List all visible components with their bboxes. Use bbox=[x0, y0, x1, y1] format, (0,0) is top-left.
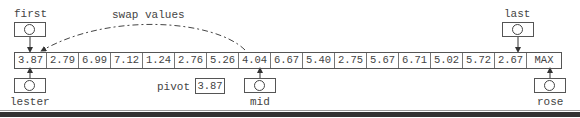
swap-arrow bbox=[43, 24, 245, 50]
divider bbox=[0, 110, 580, 111]
array-cell: 2.79 bbox=[47, 53, 79, 68]
array-cell: 5.72 bbox=[463, 53, 495, 68]
array-cell: 3.87 bbox=[15, 53, 47, 68]
pivot-value-box: 3.87 bbox=[195, 78, 225, 94]
array-cell: 6.99 bbox=[79, 53, 111, 68]
pointer-circle-icon bbox=[254, 80, 265, 91]
rose-pointer-box bbox=[534, 78, 566, 93]
pointer-circle-icon bbox=[544, 80, 555, 91]
pivot-label: pivot bbox=[157, 81, 190, 93]
array-cell: 5.26 bbox=[207, 53, 239, 68]
bottom-rule bbox=[0, 112, 580, 117]
swap-values-label: swap values bbox=[112, 9, 185, 21]
array-cell: 7.12 bbox=[111, 53, 143, 68]
last-pointer-box bbox=[502, 22, 534, 37]
array-cell: 4.04 bbox=[239, 53, 271, 68]
last-label: last bbox=[504, 8, 530, 20]
mid-pointer-box bbox=[244, 78, 276, 93]
array: 3.87 2.79 6.99 7.12 1.24 2.76 5.26 4.04 … bbox=[14, 52, 562, 69]
mid-label: mid bbox=[250, 96, 270, 108]
pointer-circle-icon bbox=[24, 80, 35, 91]
array-cell: 6.67 bbox=[271, 53, 303, 68]
array-cell: 2.76 bbox=[175, 53, 207, 68]
array-cell: 2.75 bbox=[335, 53, 367, 68]
array-cell: 5.02 bbox=[431, 53, 463, 68]
pointer-circle-icon bbox=[24, 24, 35, 35]
lester-label: lester bbox=[10, 96, 50, 108]
array-cell: 5.40 bbox=[303, 53, 335, 68]
rose-label: rose bbox=[537, 96, 563, 108]
array-cell: 1.24 bbox=[143, 53, 175, 68]
array-cell: 2.67 bbox=[495, 53, 527, 68]
first-pointer-box bbox=[14, 22, 46, 37]
first-label: first bbox=[14, 8, 47, 20]
pointer-circle-icon bbox=[512, 24, 523, 35]
array-cell-sentinel: MAX bbox=[527, 53, 561, 68]
lester-pointer-box bbox=[14, 78, 46, 93]
array-cell: 5.67 bbox=[367, 53, 399, 68]
array-cell: 6.71 bbox=[399, 53, 431, 68]
